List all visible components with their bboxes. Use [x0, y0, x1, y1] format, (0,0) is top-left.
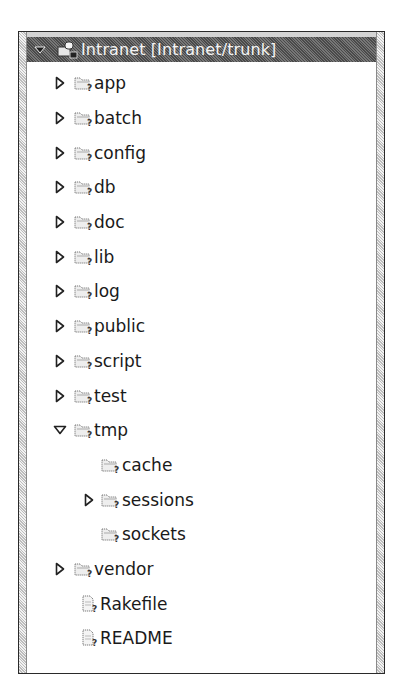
svg-text:?: ? — [87, 430, 92, 439]
tree-row-tmp[interactable]: ?tmp — [27, 413, 376, 448]
svn-project-icon — [57, 40, 79, 60]
chevron-right-icon[interactable] — [82, 492, 96, 508]
unversioned-folder-icon: ? — [101, 456, 121, 474]
chevron-right-icon[interactable] — [53, 283, 67, 299]
svg-text:?: ? — [87, 291, 92, 300]
tree-row-lib[interactable]: ?lib — [27, 239, 376, 274]
unversioned-folder-icon: ? — [74, 421, 94, 439]
tree-row-config[interactable]: ?config — [27, 135, 376, 170]
chevron-down-icon[interactable] — [31, 46, 49, 54]
svg-text:?: ? — [92, 638, 97, 647]
tree-row-readme[interactable]: ?README — [27, 621, 376, 656]
tree-row-vendor[interactable]: ?vendor — [27, 552, 376, 587]
tree-item-label: db — [94, 177, 116, 197]
unversioned-folder-icon: ? — [74, 178, 94, 196]
unversioned-folder-icon: ? — [74, 74, 94, 92]
tree-item-label: batch — [94, 108, 142, 128]
tree-item-label: script — [94, 351, 141, 371]
svg-text:?: ? — [114, 500, 119, 509]
tree-item-label: test — [94, 386, 127, 406]
svg-text:?: ? — [87, 396, 92, 405]
tree-item-label: app — [94, 73, 126, 93]
unversioned-folder-icon: ? — [74, 144, 94, 162]
tree-item-label: README — [100, 628, 173, 648]
tree-item-label: tmp — [94, 420, 128, 440]
tree-item-label: doc — [94, 212, 125, 232]
tree-row-log[interactable]: ?log — [27, 274, 376, 309]
unversioned-file-icon: ? — [80, 595, 100, 613]
tree-item-label: log — [94, 281, 120, 301]
tree-row-batch[interactable]: ?batch — [27, 101, 376, 136]
tree-item-label: config — [94, 143, 146, 163]
tree-row-public[interactable]: ?public — [27, 309, 376, 344]
svg-text:?: ? — [87, 83, 92, 92]
chevron-right-icon[interactable] — [53, 110, 67, 126]
tree-row-cache[interactable]: ?cache — [27, 448, 376, 483]
svg-text:?: ? — [87, 569, 92, 578]
chevron-right-icon[interactable] — [53, 249, 67, 265]
project-title: Intranet [Intranet/trunk] — [81, 40, 276, 59]
tree-row-sessions[interactable]: ?sessions — [27, 482, 376, 517]
chevron-right-icon[interactable] — [53, 388, 67, 404]
svg-text:?: ? — [87, 326, 92, 335]
unversioned-folder-icon: ? — [74, 317, 94, 335]
tree-item-label: lib — [94, 247, 114, 267]
svg-text:?: ? — [87, 222, 92, 231]
panel-border-left — [19, 32, 27, 673]
svg-text:?: ? — [87, 118, 92, 127]
tree-row-project-root[interactable]: Intranet [Intranet/trunk] — [27, 32, 376, 62]
svg-text:?: ? — [92, 604, 97, 613]
unversioned-folder-icon: ? — [74, 352, 94, 370]
unversioned-folder-icon: ? — [101, 525, 121, 543]
unversioned-folder-icon: ? — [101, 491, 121, 509]
file-tree: ?app?batch?config?db?doc?lib?log?public?… — [27, 66, 376, 656]
tree-item-label: sockets — [122, 524, 186, 544]
svg-text:?: ? — [114, 465, 119, 474]
tree-row-test[interactable]: ?test — [27, 378, 376, 413]
unversioned-folder-icon: ? — [74, 282, 94, 300]
chevron-right-icon[interactable] — [53, 318, 67, 334]
tree-row-sockets[interactable]: ?sockets — [27, 517, 376, 552]
svg-text:?: ? — [87, 187, 92, 196]
tree-row-script[interactable]: ?script — [27, 344, 376, 379]
unversioned-folder-icon: ? — [74, 248, 94, 266]
svg-text:?: ? — [87, 153, 92, 162]
tree-item-label: public — [94, 316, 145, 336]
chevron-right-icon[interactable] — [53, 561, 67, 577]
tree-row-doc[interactable]: ?doc — [27, 205, 376, 240]
unversioned-folder-icon: ? — [74, 213, 94, 231]
tree-item-label: sessions — [122, 490, 194, 510]
project-explorer-panel: Intranet [Intranet/trunk] ?app?batch?con… — [18, 31, 385, 674]
unversioned-folder-icon: ? — [74, 387, 94, 405]
tree-row-db[interactable]: ?db — [27, 170, 376, 205]
svg-text:?: ? — [87, 361, 92, 370]
tree-item-label: vendor — [94, 559, 153, 579]
tree-item-label: Rakefile — [100, 594, 167, 614]
chevron-right-icon[interactable] — [53, 353, 67, 369]
svg-text:?: ? — [87, 257, 92, 266]
unversioned-file-icon: ? — [80, 629, 100, 647]
tree-item-label: cache — [122, 455, 172, 475]
chevron-down-icon[interactable] — [53, 422, 67, 438]
panel-border-right — [376, 32, 384, 673]
tree-row-rakefile[interactable]: ?Rakefile — [27, 586, 376, 621]
chevron-right-icon[interactable] — [53, 145, 67, 161]
chevron-right-icon[interactable] — [53, 179, 67, 195]
unversioned-folder-icon: ? — [74, 109, 94, 127]
tree-row-app[interactable]: ?app — [27, 66, 376, 101]
svg-text:?: ? — [114, 534, 119, 543]
chevron-right-icon[interactable] — [53, 214, 67, 230]
unversioned-folder-icon: ? — [74, 560, 94, 578]
chevron-right-icon[interactable] — [53, 75, 67, 91]
